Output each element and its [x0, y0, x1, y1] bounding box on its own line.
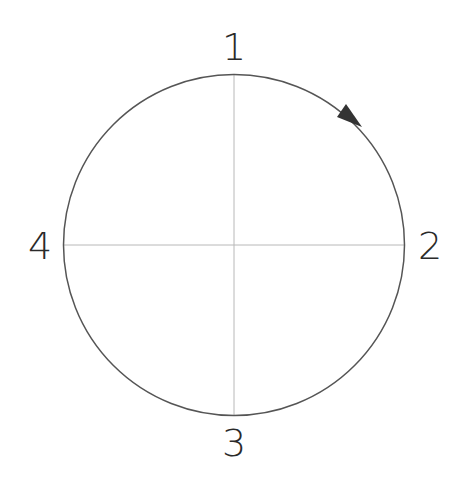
label-right: 2: [418, 224, 442, 268]
circle-diagram: 1 2 3 4: [0, 0, 459, 483]
arrow-icon: [337, 104, 362, 127]
label-top: 1: [222, 25, 246, 69]
label-bottom: 3: [222, 421, 246, 465]
label-left: 4: [28, 224, 52, 268]
